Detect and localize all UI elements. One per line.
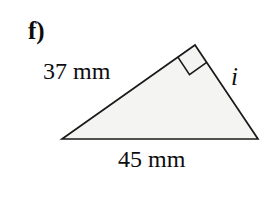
side-length-label-37mm: 37 mm (43, 58, 110, 84)
side-length-label-45mm: 45 mm (118, 146, 185, 172)
triangle-drawing (0, 0, 268, 204)
side-length-label-unknown-i: i (231, 64, 238, 90)
geometry-figure: f) 37 mm 45 mm i (0, 0, 268, 204)
